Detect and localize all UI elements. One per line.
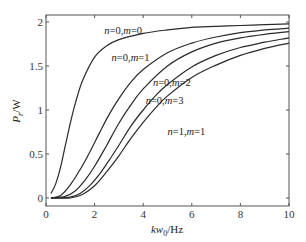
curve-label: n=0,m=0 xyxy=(104,25,142,36)
curve-n-1-m-1 xyxy=(51,43,289,198)
y-tick-label: 0 xyxy=(38,192,44,204)
line-chart: 024681000.511.52 n=0,m=0n=0,m=1n=0,m=2n=… xyxy=(0,0,306,242)
curve-label: n=0,m=3 xyxy=(146,95,184,106)
curve-n-0-m-2 xyxy=(51,32,289,198)
curve-n-0-m-0 xyxy=(51,24,289,194)
y-axis-label: Pr/W xyxy=(10,99,25,124)
plot-frame xyxy=(46,15,289,206)
curve-n-0-m-3 xyxy=(51,38,289,198)
curve-label: n=0,m=1 xyxy=(112,52,150,63)
x-tick-label: 2 xyxy=(92,208,98,220)
curve-labels: n=0,m=0n=0,m=1n=0,m=2n=0,m=3n=1,m=1 xyxy=(104,25,205,136)
x-tick-label: 6 xyxy=(189,208,195,220)
x-axis-label: kw0/Hz xyxy=(151,223,183,238)
curve-label: n=0,m=2 xyxy=(153,77,191,88)
x-tick-label: 8 xyxy=(238,208,244,220)
x-tick-label: 4 xyxy=(140,208,146,220)
y-tick-label: 1 xyxy=(38,104,44,116)
y-tick-label: 2 xyxy=(38,16,44,28)
axes-box xyxy=(46,15,289,206)
curve-n-0-m-1 xyxy=(51,28,289,198)
axis-ticks: 024681000.511.52 xyxy=(29,15,295,220)
x-tick-label: 0 xyxy=(43,208,49,220)
y-tick-label: 0.5 xyxy=(29,148,43,160)
y-tick-label: 1.5 xyxy=(29,60,43,72)
curve-label: n=1,m=1 xyxy=(168,126,206,137)
curves xyxy=(51,24,289,198)
x-tick-label: 10 xyxy=(284,208,296,220)
